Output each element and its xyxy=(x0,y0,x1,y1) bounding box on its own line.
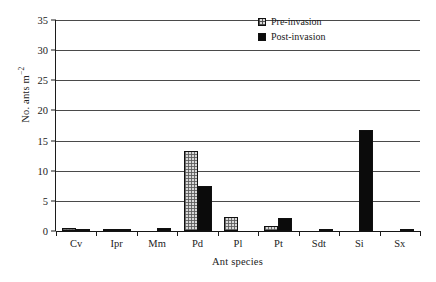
x-tick-mark xyxy=(258,231,259,236)
bar-pl-pre xyxy=(224,217,238,231)
x-tick-label-pt: Pt xyxy=(274,238,283,249)
x-axis-baseline xyxy=(56,231,420,232)
bar-group xyxy=(96,20,136,231)
x-tick-mark xyxy=(137,231,138,236)
bar-series-container xyxy=(56,20,420,231)
bar-group xyxy=(56,20,96,231)
bar-sx-post xyxy=(400,229,414,231)
x-tick-mark xyxy=(218,231,219,236)
plot-area: 05101520253035 CvIprMmPdPlPtSdtSiSx xyxy=(55,20,420,231)
bar-group xyxy=(137,20,177,231)
legend-label-post-invasion: Post-invasion xyxy=(271,31,325,44)
y-tick-label: 0 xyxy=(43,226,56,237)
x-tick-label-mm: Mm xyxy=(148,238,166,249)
x-tick-label-pl: Pl xyxy=(234,238,243,249)
x-tick-mark xyxy=(177,231,178,236)
y-axis-title: No. ants m−2 xyxy=(17,25,31,165)
x-axis-title: Ant species xyxy=(55,256,420,267)
bar-pt-post xyxy=(278,218,292,231)
bar-pd-post xyxy=(198,186,212,231)
bar-pt-pre xyxy=(264,226,278,231)
bar-group xyxy=(258,20,298,231)
y-tick-label: 20 xyxy=(38,105,57,116)
x-tick-label-sx: Sx xyxy=(394,238,405,249)
x-tick-mark xyxy=(380,231,381,236)
legend-item-post-invasion: Post-invasion xyxy=(258,31,325,44)
bar-cv-post xyxy=(76,229,90,231)
y-axis-title-text: No. ants m xyxy=(20,75,31,123)
bar-ipr-pre xyxy=(103,229,117,231)
bar-ipr-post xyxy=(117,229,131,231)
x-tick-label-si: Si xyxy=(355,238,364,249)
y-tick-label: 25 xyxy=(38,75,57,86)
x-tick-mark xyxy=(339,231,340,236)
y-tick-label: 15 xyxy=(38,135,57,146)
y-tick-label: 5 xyxy=(43,195,56,206)
hatched-square-icon xyxy=(258,18,266,26)
ant-species-bar-chart: No. ants m−2 05101520253035 CvIprMmPdPlP… xyxy=(0,0,436,282)
legend-label-pre-invasion: Pre-invasion xyxy=(271,16,322,29)
filled-square-icon xyxy=(258,33,266,41)
chart-legend: Pre-invasion Post-invasion xyxy=(258,16,325,45)
x-tick-label-cv: Cv xyxy=(70,238,82,249)
y-tick-label: 35 xyxy=(38,15,57,26)
y-tick-label: 10 xyxy=(38,165,57,176)
x-tick-mark xyxy=(96,231,97,236)
bar-group xyxy=(218,20,258,231)
x-tick-label-sdt: Sdt xyxy=(312,238,326,249)
bar-cv-pre xyxy=(62,228,76,231)
bar-si-post xyxy=(359,130,373,231)
x-tick-mark xyxy=(299,231,300,236)
x-tick-label-pd: Pd xyxy=(192,238,203,249)
bar-group xyxy=(177,20,217,231)
x-tick-mark xyxy=(420,231,421,236)
y-tick-label: 30 xyxy=(38,45,57,56)
bar-sdt-post xyxy=(319,229,333,231)
y-axis-title-exponent: −2 xyxy=(17,67,26,75)
bar-group xyxy=(339,20,379,231)
x-tick-mark xyxy=(56,231,57,236)
bar-group xyxy=(299,20,339,231)
x-tick-label-ipr: Ipr xyxy=(111,238,123,249)
legend-item-pre-invasion: Pre-invasion xyxy=(258,16,325,29)
bar-pd-pre xyxy=(184,151,198,231)
bar-mm-post xyxy=(157,228,171,231)
bar-group xyxy=(380,20,420,231)
